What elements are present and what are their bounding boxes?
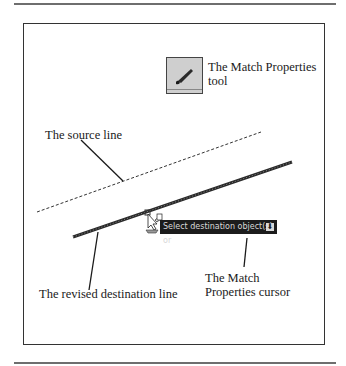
destination-leader-line: [89, 232, 98, 290]
cursor-label-line2: Properties cursor: [205, 285, 290, 299]
cursor-label: The Match Properties cursor: [205, 271, 290, 299]
source-leader-line: [81, 140, 123, 181]
diagram-lines: [0, 0, 346, 366]
source-line: [37, 132, 261, 212]
destination-line-label: The revised destination line: [39, 287, 178, 301]
cursor-leader-line: [244, 238, 247, 267]
down-arrow-icon[interactable]: ⬇: [266, 223, 274, 231]
cursor-label-line1: The Match: [205, 271, 290, 285]
command-tooltip: Select destination object(s) or ⬇: [160, 220, 277, 234]
bottom-rule: [14, 362, 336, 364]
